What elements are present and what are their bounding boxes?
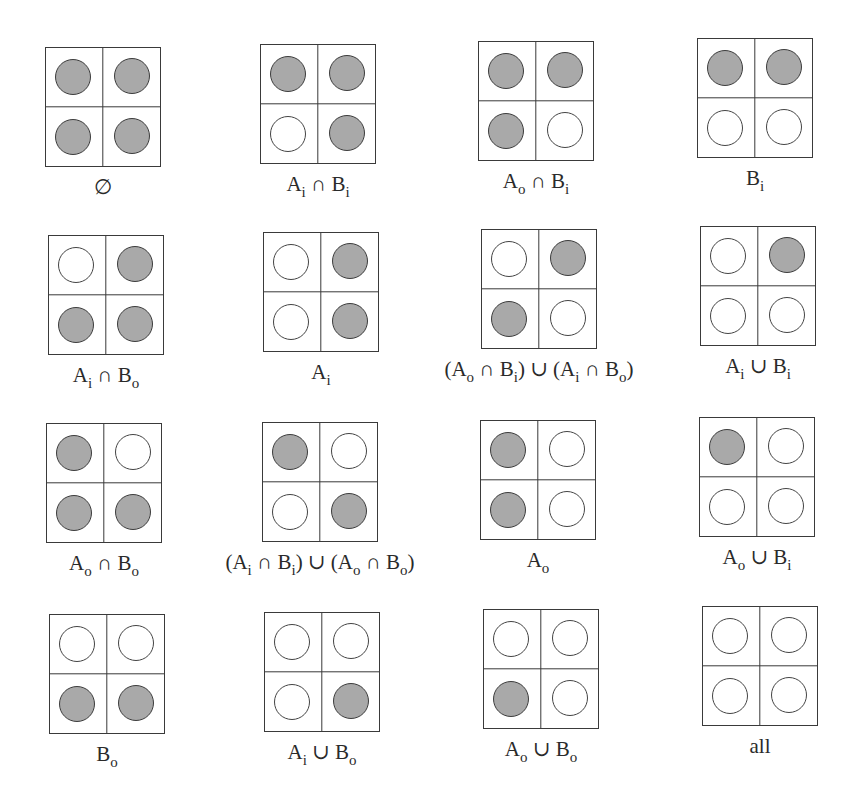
empty-circle-bottom-left: [272, 494, 308, 530]
caption-text: A: [288, 740, 303, 764]
empty-circle-top-left: [491, 241, 527, 277]
panel-caption: Ao ∩ Bi: [436, 169, 636, 194]
quadrant-box: [45, 47, 161, 167]
empty-circle-bottom-left: [710, 298, 746, 334]
filled-circle-bottom-left: [59, 686, 95, 722]
panel-caption: all: [660, 734, 860, 759]
caption-subscript: i: [787, 557, 791, 573]
filled-circle-bottom-right: [329, 115, 365, 151]
caption-subscript: o: [131, 563, 139, 579]
quadrant-box: [697, 38, 813, 158]
caption-text: ∩ B: [252, 550, 292, 574]
caption-text: A: [69, 551, 84, 575]
empty-circle-top-right: [333, 623, 369, 659]
empty-circle-top-left: [273, 244, 309, 280]
panel-caption: Ai ∩ Bi: [218, 172, 418, 197]
venn-panel: Bo: [7, 614, 207, 804]
filled-circle-bottom-right: [115, 494, 151, 530]
filled-circle-top-right: [329, 55, 365, 91]
caption-text: A: [73, 363, 88, 387]
horizontal-divider: [703, 665, 817, 666]
venn-panel: Ai: [221, 232, 421, 422]
caption-text: ) ∪ (A: [518, 357, 575, 381]
caption-text: A: [505, 737, 520, 761]
quadrant-box: [264, 612, 380, 732]
horizontal-divider: [479, 100, 593, 101]
caption-text: A: [527, 548, 542, 572]
venn-panel: Bi: [655, 38, 855, 228]
panel-caption: ∅: [3, 175, 203, 200]
venn-panel: (Ai ∩ Bi) ∪ (Ao ∩ Bo): [220, 422, 420, 612]
venn-panel: all: [660, 606, 860, 796]
horizontal-divider: [698, 97, 812, 98]
panel-caption: Ao ∪ Bi: [657, 545, 857, 570]
quadrant-box: [46, 423, 162, 543]
filled-circle-top-right: [114, 58, 150, 94]
caption-subscript: o: [467, 369, 475, 385]
caption-text: ∪ B: [745, 545, 787, 569]
caption-text: ∩ B: [92, 363, 132, 387]
panel-caption: Ai ∪ Bo: [222, 740, 422, 765]
empty-circle-top-right: [552, 620, 588, 656]
venn-panel: Ao: [438, 420, 638, 610]
caption-subscript: o: [520, 749, 528, 765]
filled-circle-bottom-left: [491, 301, 527, 337]
quadrant-box: [699, 417, 815, 537]
caption-subscript: i: [760, 178, 764, 194]
venn-panel: Ai ∩ Bo: [6, 235, 206, 425]
caption-text: A: [725, 354, 740, 378]
venn-panel: Ao ∪ Bo: [441, 609, 641, 799]
caption-text: ∩ B: [579, 357, 619, 381]
caption-text: ): [408, 550, 415, 574]
caption-text: ∩ B: [306, 172, 346, 196]
caption-text: A: [503, 169, 518, 193]
caption-text: ): [627, 357, 634, 381]
filled-circle-top-left: [490, 432, 526, 468]
filled-circle-bottom-left: [493, 681, 529, 717]
horizontal-divider: [481, 479, 595, 480]
filled-circle-bottom-left: [58, 307, 94, 343]
caption-text: B: [96, 742, 110, 766]
quadrant-box: [49, 614, 165, 734]
filled-circle-bottom-right: [333, 683, 369, 719]
panel-caption: Ai: [221, 360, 421, 385]
venn-panel: Ao ∪ Bi: [657, 417, 857, 607]
filled-circle-bottom-left: [55, 119, 91, 155]
caption-subscript: i: [345, 184, 349, 200]
empty-circle-top-right: [768, 428, 804, 464]
empty-circle-bottom-right: [771, 677, 807, 713]
caption-subscript: i: [327, 372, 331, 388]
empty-circle-bottom-right: [549, 491, 585, 527]
caption-text: ∩ B: [474, 357, 514, 381]
venn-panel: Ai ∪ Bo: [222, 612, 422, 802]
caption-subscript: o: [349, 752, 357, 768]
caption-text: (A: [444, 357, 466, 381]
venn-panel: Ao ∩ Bo: [4, 423, 204, 613]
horizontal-divider: [47, 482, 161, 483]
empty-circle-top-left: [274, 624, 310, 660]
horizontal-divider: [701, 285, 815, 286]
caption-text: ∪ B: [307, 740, 349, 764]
caption-subscript: o: [400, 562, 408, 578]
filled-circle-top-right: [550, 240, 586, 276]
caption-text: ∪ B: [745, 354, 787, 378]
filled-circle-bottom-left: [488, 113, 524, 149]
panel-caption: Bo: [7, 742, 207, 767]
empty-circle-top-left: [493, 621, 529, 657]
caption-text: A: [286, 172, 301, 196]
empty-circle-top-right: [115, 434, 151, 470]
caption-text: ) ∪ (A: [296, 550, 353, 574]
horizontal-divider: [50, 673, 164, 674]
horizontal-divider: [261, 103, 375, 104]
filled-circle-bottom-left: [490, 492, 526, 528]
empty-circle-top-right: [118, 625, 154, 661]
empty-circle-bottom-right: [547, 112, 583, 148]
quadrant-box: [262, 422, 378, 542]
caption-text: A: [311, 360, 326, 384]
caption-text: A: [723, 545, 738, 569]
filled-circle-bottom-right: [114, 118, 150, 154]
empty-circle-top-left: [59, 626, 95, 662]
empty-circle-bottom-right: [766, 109, 802, 145]
empty-circle-top-left: [710, 238, 746, 274]
filled-circle-bottom-right: [332, 303, 368, 339]
